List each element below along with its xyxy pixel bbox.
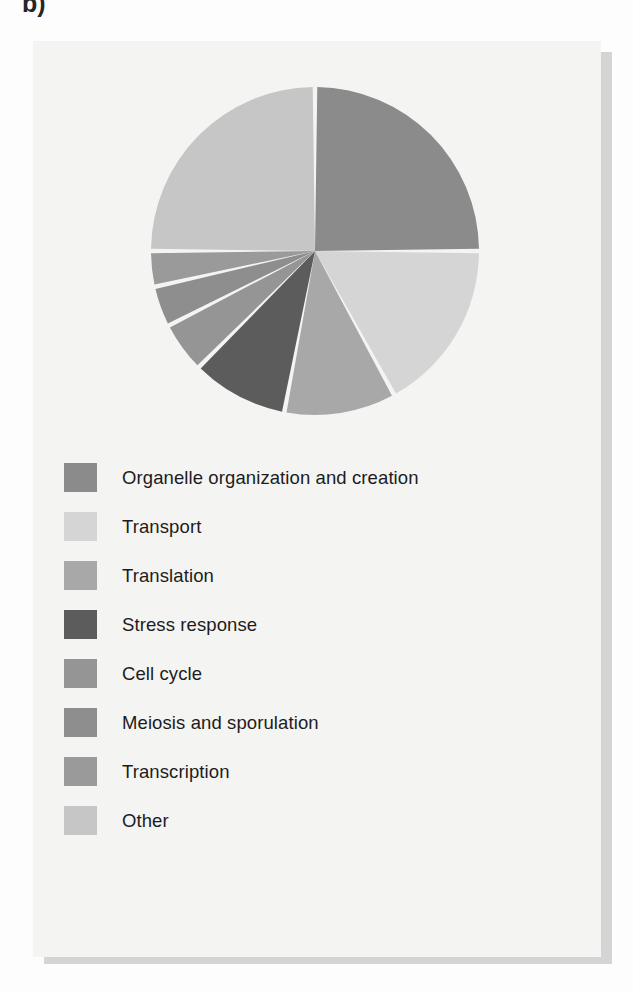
legend-item-cell-cycle: Cell cycle <box>64 649 564 698</box>
figure-panel: Organelle organization and creation Tran… <box>33 41 601 957</box>
page-root: b) Organelle organization and creation T… <box>0 0 633 992</box>
legend-item-label: Stress response <box>122 614 257 636</box>
legend: Organelle organization and creation Tran… <box>64 453 564 845</box>
legend-item-label: Meiosis and sporulation <box>122 712 319 734</box>
legend-item-other: Other <box>64 796 564 845</box>
legend-item-label: Translation <box>122 565 214 587</box>
pie-chart <box>150 86 480 416</box>
legend-swatch-icon <box>64 561 97 590</box>
legend-item-stress-response: Stress response <box>64 600 564 649</box>
legend-item-label: Organelle organization and creation <box>122 467 419 489</box>
legend-item-meiosis-and-sporulation: Meiosis and sporulation <box>64 698 564 747</box>
legend-item-translation: Translation <box>64 551 564 600</box>
legend-swatch-icon <box>64 610 97 639</box>
legend-item-label: Cell cycle <box>122 663 202 685</box>
pie-slice <box>151 87 315 251</box>
legend-item-transcription: Transcription <box>64 747 564 796</box>
legend-swatch-icon <box>64 757 97 786</box>
legend-swatch-icon <box>64 659 97 688</box>
legend-item-label: Other <box>122 810 169 832</box>
panel-label: b) <box>22 0 46 16</box>
legend-swatch-icon <box>64 806 97 835</box>
legend-item-label: Transcription <box>122 761 230 783</box>
legend-item-label: Transport <box>122 516 201 538</box>
pie-slice-group <box>151 87 479 415</box>
legend-swatch-icon <box>64 512 97 541</box>
legend-swatch-icon <box>64 463 97 492</box>
legend-item-organelle-organization-and-creation: Organelle organization and creation <box>64 453 564 502</box>
legend-item-transport: Transport <box>64 502 564 551</box>
legend-swatch-icon <box>64 708 97 737</box>
pie-slice <box>315 87 479 251</box>
pie-chart-svg <box>150 86 480 416</box>
